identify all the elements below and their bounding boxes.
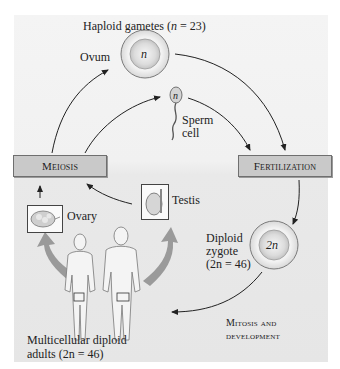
adults-label-line2: adults (2n = 46) [27, 348, 103, 361]
cycle-arrows [0, 0, 340, 369]
ovum-ploidy: n [141, 48, 147, 61]
arrow-zygote-to-adults [172, 272, 262, 312]
title-text-b: = 23) [177, 19, 206, 33]
testis-label: Testis [172, 194, 200, 207]
ovary-label: Ovary [67, 210, 97, 223]
male-figure-icon [103, 227, 140, 340]
diagram-title: Haploid gametes (n = 23) [83, 20, 206, 33]
zygote-ploidy: 2n [266, 239, 278, 252]
fertilization-label: Fertilization [254, 160, 316, 172]
testis-thumbnail [141, 184, 169, 220]
adults-label-line1: Multicellular diploid [27, 334, 127, 347]
fertilization-stage-box: Fertilization [238, 155, 332, 177]
big-arrow-male-to-testis [143, 227, 178, 286]
sperm-label-line2: cell [182, 127, 199, 140]
process-label-line1: Mitosis and [226, 316, 276, 329]
arrow-meiosis-to-ovum [52, 70, 108, 153]
ovum-label: Ovum [80, 51, 110, 64]
zygote-label-line3: (2n = 46) [206, 258, 251, 271]
title-text-a: Haploid gametes ( [83, 19, 171, 33]
sperm-ploidy: n [173, 89, 178, 102]
ovary-thumbnail [27, 205, 63, 233]
testis-icon [142, 185, 168, 219]
arrow-meiosis-to-sperm [85, 97, 160, 153]
female-figure-icon [65, 234, 95, 340]
meiosis-label: Meiosis [42, 160, 78, 172]
process-label-line2: development [226, 329, 280, 342]
ovary-icon [28, 206, 62, 232]
arrow-fertilization-to-zygote [293, 180, 299, 224]
meiosis-stage-box: Meiosis [13, 155, 107, 177]
arrow-testis-to-meiosis [87, 184, 132, 204]
